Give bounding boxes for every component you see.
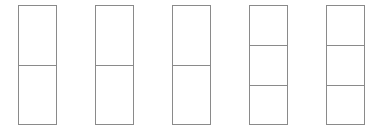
box-divider-line: [327, 85, 364, 86]
segmented-box-2: [95, 5, 134, 125]
segmented-box-5: [326, 5, 365, 125]
segmented-box-3: [172, 5, 211, 125]
box-divider-line: [250, 85, 287, 86]
box-divider-line: [19, 65, 56, 66]
box-divider-line: [250, 45, 287, 46]
box-divider-line: [173, 65, 210, 66]
box-divider-line: [96, 65, 133, 66]
segmented-box-1: [18, 5, 57, 125]
segmented-box-4: [249, 5, 288, 125]
box-divider-line: [327, 45, 364, 46]
